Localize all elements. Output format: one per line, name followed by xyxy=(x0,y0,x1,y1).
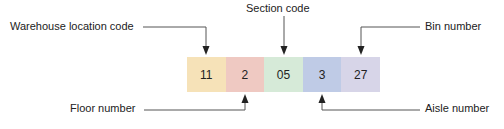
arrowhead-up-icon xyxy=(242,94,249,103)
connector-lines xyxy=(0,0,504,129)
arrowhead-down-icon xyxy=(203,46,210,55)
arrow-floor xyxy=(144,101,245,110)
arrowhead-down-icon xyxy=(358,46,365,55)
arrow-bin xyxy=(361,27,420,48)
arrow-aisle xyxy=(322,101,420,110)
arrowhead-up-icon xyxy=(319,94,326,103)
arrowhead-down-icon xyxy=(281,46,288,55)
arrow-warehouse xyxy=(143,27,206,48)
